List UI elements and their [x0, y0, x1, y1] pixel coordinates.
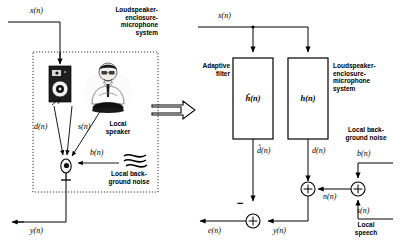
- echo-signal-label: d(n): [312, 146, 325, 155]
- sum-junction-mic: [301, 182, 315, 196]
- local-speaker-label: Local speaker: [96, 120, 140, 135]
- left-b-label: b(n): [90, 148, 103, 157]
- local-speech-label: Local speech: [338, 221, 394, 236]
- left-x-label: x(n): [30, 6, 43, 15]
- left-system-label: Loudspeaker- enclosure- microphone syste…: [68, 6, 158, 36]
- left-y-label: y(n): [30, 226, 43, 235]
- diagram-vector-layer: [0, 0, 402, 246]
- loudspeaker-icon: [49, 66, 71, 105]
- right-y-label: y(n): [273, 226, 286, 235]
- error-signal-label: e(n): [208, 226, 221, 235]
- right-x-input-bus: [198, 25, 308, 52]
- echo-path-d-arrows: [54, 106, 72, 155]
- lem-system-transfer: h(n): [288, 93, 328, 103]
- estimated-echo-label: d̂(n): [257, 146, 270, 155]
- right-noise-label: Local back- ground noise: [333, 126, 399, 141]
- right-system-label: Loudspeaker- enclosure- microphone syste…: [333, 62, 401, 92]
- local-speaker-person-icon: [84, 63, 132, 113]
- noise-input-path: [358, 163, 393, 178]
- left-s-label: s(n): [78, 122, 90, 131]
- left-y-output-path: [12, 180, 66, 222]
- microphone-icon: [61, 159, 71, 180]
- left-d-label: d(n): [34, 122, 47, 131]
- mic-output-path: [268, 196, 308, 221]
- combined-noise-label: n(n): [323, 192, 336, 201]
- diagram-canvas: x(n) Loudspeaker- enclosure- microphone …: [0, 0, 402, 246]
- minus-sign-label: −: [237, 197, 243, 209]
- adaptive-filter-label: Adaptive filter: [186, 62, 230, 77]
- adaptive-filter-transfer: ĥ(n): [233, 93, 273, 103]
- right-s-label: s(n): [357, 206, 369, 215]
- sum-junction-error: [246, 214, 260, 228]
- left-x-input-path: [8, 22, 60, 64]
- right-x-label: x(n): [218, 11, 231, 20]
- right-b-label: b(n): [357, 149, 370, 158]
- sum-junction-noise-speech: [351, 182, 365, 196]
- noise-waves-icon: [124, 155, 147, 167]
- local-background-noise-label: Local back- ground noise: [100, 170, 158, 185]
